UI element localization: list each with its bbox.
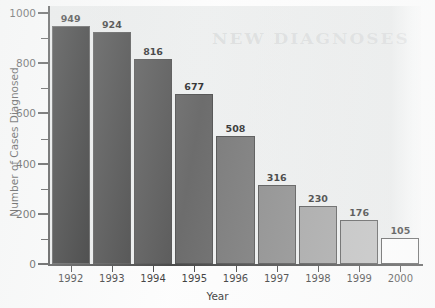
- bars-layer: 949924816677508316230176105: [0, 0, 435, 265]
- x-tick-label-1996: 1996: [223, 273, 248, 284]
- x-axis-title: Year: [0, 290, 435, 302]
- x-tick-label-1992: 1992: [58, 273, 83, 284]
- x-tick-label-1995: 1995: [182, 273, 207, 284]
- bar-1993[interactable]: [93, 32, 131, 264]
- bar-value-label-1993: 924: [102, 19, 122, 30]
- bar-1994[interactable]: [134, 59, 172, 264]
- x-tick-1997: [277, 266, 278, 272]
- bar-1998[interactable]: [299, 206, 337, 264]
- bar-value-label-1998: 230: [308, 193, 328, 204]
- x-tick-label-1994: 1994: [140, 273, 165, 284]
- x-tick-label-1998: 1998: [305, 273, 330, 284]
- x-tick-1999: [359, 266, 360, 272]
- bar-value-label-1992: 949: [61, 13, 81, 24]
- bar-value-label-2000: 105: [390, 225, 410, 236]
- bar-1992[interactable]: [52, 26, 90, 264]
- bar-1999[interactable]: [340, 220, 378, 264]
- x-tick-1995: [194, 266, 195, 272]
- x-tick-2000: [400, 266, 401, 272]
- x-tick-1992: [71, 266, 72, 272]
- bar-value-label-1995: 677: [184, 81, 204, 92]
- bar-chart-figure: NEW DIAGNOSES 02004006008001000 94992481…: [0, 0, 435, 308]
- y-axis-title: Number of Cases Diagnosed: [8, 42, 20, 242]
- x-tick-1994: [153, 266, 154, 272]
- x-tick-1998: [318, 266, 319, 272]
- bar-2000[interactable]: [381, 238, 419, 264]
- x-tick-label-2000: 2000: [388, 273, 413, 284]
- x-tick-label-1997: 1997: [264, 273, 289, 284]
- bar-1995[interactable]: [175, 94, 213, 264]
- x-tick-label-1993: 1993: [99, 273, 124, 284]
- bar-value-label-1999: 176: [349, 207, 369, 218]
- x-tick-1993: [112, 266, 113, 272]
- bar-value-label-1994: 816: [143, 46, 163, 57]
- bar-value-label-1996: 508: [226, 123, 246, 134]
- bar-1996[interactable]: [216, 136, 254, 264]
- x-tick-label-1999: 1999: [346, 273, 371, 284]
- bar-value-label-1997: 316: [267, 172, 287, 183]
- bar-1997[interactable]: [258, 185, 296, 264]
- x-tick-1996: [236, 266, 237, 272]
